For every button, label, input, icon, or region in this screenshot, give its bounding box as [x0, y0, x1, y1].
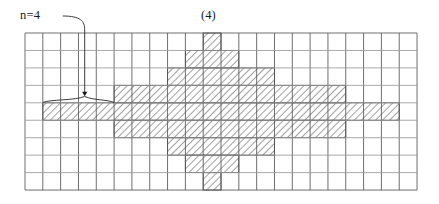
- figure-canvas: [0, 0, 439, 204]
- shaded-run: [185, 155, 238, 172]
- shaded-run: [203, 173, 221, 190]
- shaded-run: [114, 85, 346, 102]
- shaded-run: [203, 33, 221, 50]
- n-value-label: n=4: [20, 8, 40, 23]
- shaded-run: [185, 50, 238, 67]
- shaded-run: [114, 120, 346, 137]
- figure-caption-number: (4): [201, 8, 216, 23]
